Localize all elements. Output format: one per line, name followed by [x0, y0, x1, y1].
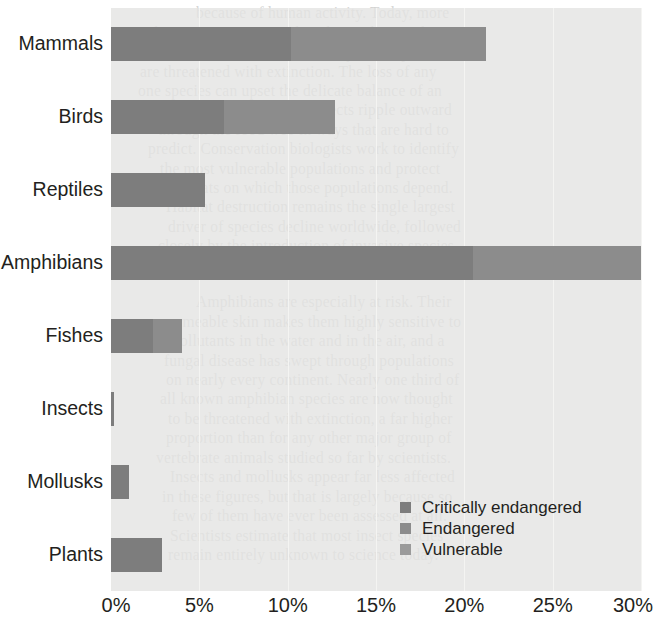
y-axis-label-mammals: Mammals [0, 32, 103, 55]
bar-segment [111, 319, 153, 353]
bar-reptiles [111, 173, 205, 207]
bar-fishes [111, 319, 182, 353]
gridline [111, 8, 112, 591]
chart-legend: Critically endangeredEndangeredVulnerabl… [396, 497, 624, 561]
gridline [641, 8, 642, 591]
y-axis-category-labels: MammalsBirdsReptilesAmphibiansFishesInse… [0, 0, 103, 626]
bar-segment [111, 27, 291, 61]
bar-amphibians [111, 246, 641, 280]
bar-segment [111, 100, 224, 134]
legend-item-critically-endangered: Critically endangered [396, 497, 624, 518]
legend-swatch-icon [400, 502, 411, 513]
y-axis-label-mollusks: Mollusks [0, 470, 103, 493]
x-tick-0pct: 0% [102, 594, 131, 617]
legend-label: Endangered [422, 520, 515, 537]
bar-segment [111, 465, 129, 499]
bar-segment [224, 100, 335, 134]
y-axis-label-insects: Insects [0, 397, 103, 420]
y-axis-label-plants: Plants [0, 543, 103, 566]
x-tick-10pct: 10% [268, 594, 308, 617]
bar-mammals [111, 27, 486, 61]
y-axis-label-amphibians: Amphibians [0, 251, 103, 274]
bar-segment [111, 246, 473, 280]
bar-plants [111, 538, 162, 572]
legend-item-endangered: Endangered [396, 518, 624, 539]
gridline [288, 8, 289, 591]
x-tick-15pct: 15% [356, 594, 396, 617]
legend-label: Vulnerable [422, 541, 503, 558]
legend-swatch-icon [400, 544, 411, 555]
y-axis-label-birds: Birds [0, 105, 103, 128]
bar-insects [111, 392, 114, 426]
x-tick-30pct: 30% [613, 594, 653, 617]
y-axis-label-reptiles: Reptiles [0, 178, 103, 201]
bar-segment [291, 27, 485, 61]
gridline [376, 8, 377, 591]
x-tick-5pct: 5% [185, 594, 214, 617]
x-tick-20pct: 20% [444, 594, 484, 617]
bar-segment [153, 319, 181, 353]
bar-birds [111, 100, 335, 134]
bar-segment [111, 173, 205, 207]
legend-swatch-icon [400, 523, 411, 534]
bar-segment [111, 538, 162, 572]
bar-mollusks [111, 465, 129, 499]
gridline [199, 8, 200, 591]
x-tick-25pct: 25% [533, 594, 573, 617]
bar-segment [473, 246, 641, 280]
y-axis-label-fishes: Fishes [0, 324, 103, 347]
x-axis-tick-labels: 0%5%10%15%20%25%30% [0, 592, 649, 626]
legend-item-vulnerable: Vulnerable [396, 539, 624, 560]
bar-segment [111, 392, 114, 426]
legend-label: Critically endangered [422, 499, 582, 516]
